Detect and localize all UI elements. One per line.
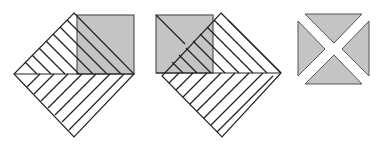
figure-1 [14, 13, 134, 137]
geometry-diagram [0, 0, 382, 147]
lower-hatching [27, 74, 124, 130]
lower-hatching [169, 73, 273, 132]
figure-2 [156, 13, 281, 137]
figure-3 [298, 14, 369, 84]
